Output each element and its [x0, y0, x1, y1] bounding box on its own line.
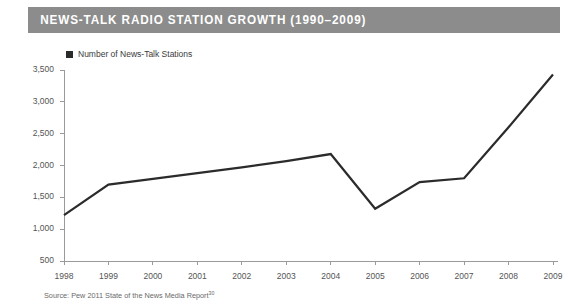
y-axis-tick-label: 500	[20, 255, 54, 265]
y-axis-tick-label: 1,000	[20, 223, 54, 233]
data-series-line	[64, 74, 553, 215]
y-axis-tick-label: 3,500	[20, 64, 54, 74]
x-axis-tick-label: 2002	[224, 271, 260, 281]
x-axis-tick-label: 2001	[179, 271, 215, 281]
x-axis-tick-label: 2008	[491, 271, 527, 281]
x-axis-tick-label: 2000	[135, 271, 171, 281]
y-axis-tick-label: 3,000	[20, 96, 54, 106]
x-axis-tick-label: 2005	[357, 271, 393, 281]
line-chart-svg	[0, 0, 574, 307]
source-text: Source: Pew 2011 State of the News Media…	[44, 291, 209, 300]
x-axis-tick-label: 2009	[535, 271, 571, 281]
y-axis-tick-label: 2,000	[20, 160, 54, 170]
x-axis-tick-label: 2006	[402, 271, 438, 281]
x-axis-tick-label: 2003	[268, 271, 304, 281]
plot-area: 5001,0001,5002,0002,5003,0003,5001998199…	[0, 0, 574, 307]
source-superscript: 30	[209, 290, 215, 296]
x-axis-tick-label: 2007	[446, 271, 482, 281]
y-axis-tick-label: 1,500	[20, 191, 54, 201]
axis-spine	[64, 70, 558, 261]
x-axis-tick-label: 1998	[46, 271, 82, 281]
chart-figure: NEWS-TALK RADIO STATION GROWTH (1990–200…	[0, 0, 574, 307]
x-axis-tick-label: 2004	[313, 271, 349, 281]
x-axis-tick-label: 1999	[90, 271, 126, 281]
y-axis-tick-label: 2,500	[20, 128, 54, 138]
source-note: Source: Pew 2011 State of the News Media…	[44, 290, 214, 300]
